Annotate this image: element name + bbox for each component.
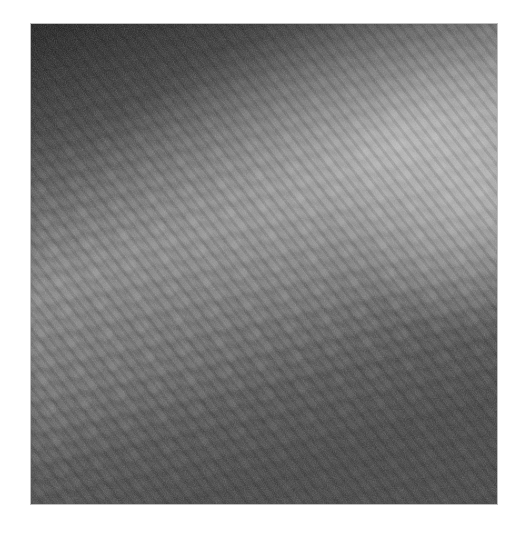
micrograph-rendering bbox=[31, 24, 497, 504]
micrograph-image bbox=[31, 24, 497, 504]
